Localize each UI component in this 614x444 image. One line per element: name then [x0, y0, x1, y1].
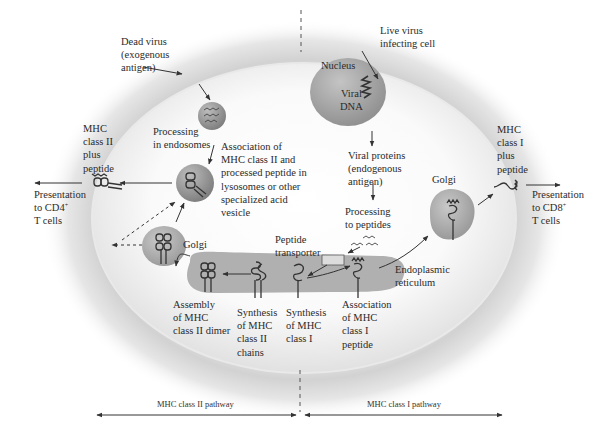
label-class1-pathway: MHC class I pathway — [367, 399, 441, 409]
label-viral-dna: ViralDNA — [340, 87, 363, 113]
label-processing-peptides: Processingto peptides — [345, 205, 391, 231]
label-nucleus: Nucleus — [321, 59, 355, 72]
label-live-virus: Live virusinfecting cell — [380, 24, 435, 50]
label-golgi-right: Golgi — [432, 173, 456, 186]
label-endoplasmic-reticulum: Endoplasmicreticulum — [395, 263, 450, 289]
label-golgi-left: Golgi — [183, 238, 207, 251]
label-processing-endosomes: Processingin endosomes — [153, 125, 210, 151]
label-presentation-cd4: Presentation to CD4+ T cells — [34, 188, 86, 228]
label-peptide-transporter: Peptidetransporter — [275, 233, 320, 259]
mhc-pathway-diagram — [0, 0, 614, 444]
peptide-transporter — [322, 255, 344, 265]
label-association-class2: Association ofMHC class II andprocessed … — [221, 140, 307, 219]
label-mhc1-plus-peptide: MHCclass Ipluspeptide — [497, 123, 528, 176]
label-association-class1: Associationof MHCclass Ipeptide — [342, 298, 392, 351]
label-dead-virus: Dead virus(exogenousantigen) — [121, 35, 169, 75]
label-viral-proteins: Viral proteins(endogenousantigen) — [348, 149, 405, 189]
label-mhc2-plus-peptide: MHCclass IIpluspeptide — [83, 122, 114, 175]
label-assembly-class2: Assemblyof MHCclass II dimer — [173, 298, 230, 338]
label-synthesis-class2: Synthesisof MHCclass IIchains — [237, 306, 277, 359]
label-synthesis-class1: Synthesisof MHCclass I — [286, 306, 326, 346]
label-class2-pathway: MHC class II pathway — [157, 399, 234, 409]
label-presentation-cd8: Presentation to CD8+ T cells — [532, 188, 584, 228]
